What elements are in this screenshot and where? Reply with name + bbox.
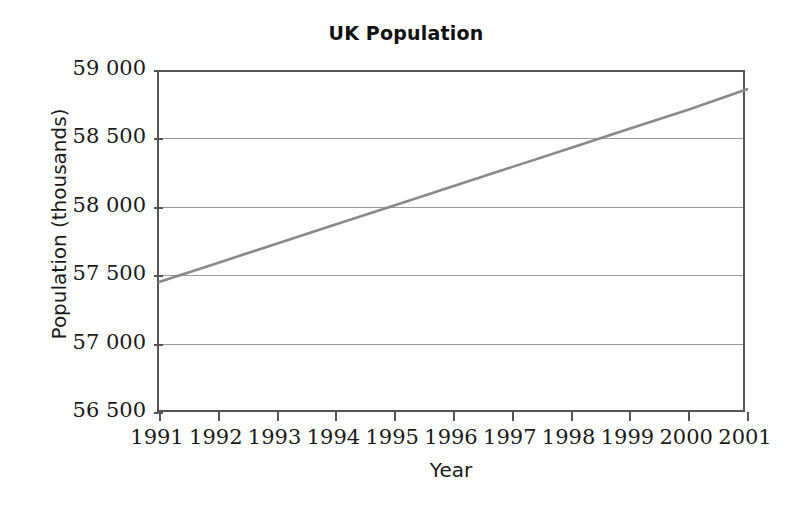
x-axis-tick	[512, 412, 514, 421]
x-axis-tick	[571, 412, 573, 421]
chart-page: UK Population Population (thousands) 56 …	[0, 0, 812, 517]
x-axis-tick	[335, 412, 337, 421]
page-title: UK Population	[0, 22, 812, 44]
y-axis-tick-label: 57 000	[26, 330, 146, 354]
line-series-uk-population	[159, 89, 747, 282]
x-axis-tick-labels: 1991199219931994199519961997199819992000…	[157, 425, 745, 455]
x-axis-title: Year	[157, 458, 745, 482]
plot-area	[157, 70, 745, 412]
x-axis-tick	[453, 412, 455, 421]
x-axis-tick	[218, 412, 220, 421]
y-axis-tick-label: 58 500	[26, 124, 146, 148]
x-axis-tick-label: 2001	[705, 425, 785, 449]
y-axis-tick-label: 59 000	[26, 56, 146, 80]
x-axis-tick	[394, 412, 396, 421]
y-axis-tick-label: 58 000	[26, 193, 146, 217]
x-axis-tick	[277, 412, 279, 421]
x-axis-tick	[159, 412, 161, 421]
y-axis-tick-label: 57 500	[26, 261, 146, 285]
x-axis-tick	[688, 412, 690, 421]
x-axis-tick	[747, 412, 749, 421]
y-axis-tick-labels: 56 50057 00057 50058 00058 50059 000	[12, 70, 146, 412]
line-series-layer	[159, 70, 747, 412]
x-axis-tick	[629, 412, 631, 421]
y-axis-tick-label: 56 500	[26, 398, 146, 422]
